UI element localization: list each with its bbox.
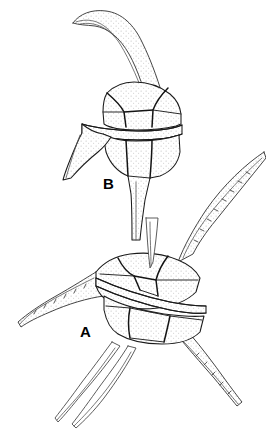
figure-label-a: A xyxy=(80,324,91,339)
dinoflagellate-illustration xyxy=(0,0,266,435)
specimen-a-lower-right-horn xyxy=(178,334,242,406)
specimen-b-hypotheca xyxy=(103,134,180,240)
specimen-a-left-horn xyxy=(18,272,104,327)
figure-label-b: B xyxy=(103,176,114,191)
specimen-b-epitheca xyxy=(103,82,181,130)
figure-canvas: A B xyxy=(0,0,266,435)
specimen-a-upper-right-horn xyxy=(178,152,266,262)
specimen-b xyxy=(63,11,182,240)
